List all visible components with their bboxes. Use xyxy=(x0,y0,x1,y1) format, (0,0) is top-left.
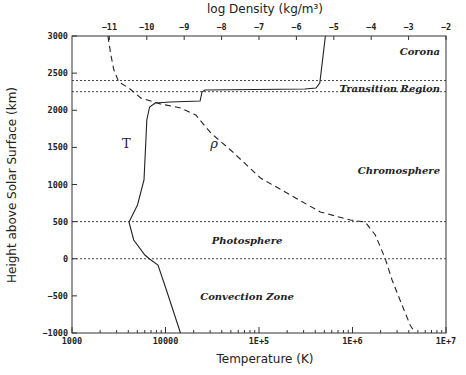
x2-tick-label: −8 xyxy=(216,22,226,32)
y-tick-label: −500 xyxy=(48,291,68,301)
x2-axis-label: log Density (kg/m³) xyxy=(207,2,323,16)
region-label: Chromosphere xyxy=(358,165,440,176)
x2-tick-label: −5 xyxy=(329,22,339,32)
curve-label: T xyxy=(122,136,131,151)
region-label: Convection Zone xyxy=(200,291,294,302)
region-label: Transition Region xyxy=(340,83,440,94)
region-label: Photosphere xyxy=(211,235,283,246)
x2-tick-label: −9 xyxy=(179,22,189,32)
x2-tick-label: −4 xyxy=(366,22,376,32)
x-tick-label: 1E+6 xyxy=(342,336,362,346)
y-tick-label: 500 xyxy=(53,217,68,227)
region-label: Corona xyxy=(400,46,440,57)
x2-tick-label: −10 xyxy=(139,22,154,32)
x-tick-label: 10000 xyxy=(153,336,179,346)
x2-tick-label: −3 xyxy=(403,22,413,32)
x2-tick-label: −6 xyxy=(291,22,301,32)
x-axis-top: −11−10−9−8−7−6−5−4−3−2 xyxy=(102,22,451,40)
y-tick-label: 1000 xyxy=(48,180,68,190)
x-tick-label: 1E+7 xyxy=(436,336,456,346)
y-tick-label: −1000 xyxy=(42,328,68,338)
region-labels: CoronaTransition RegionChromospherePhoto… xyxy=(200,46,440,302)
y-tick-label: 3000 xyxy=(48,31,68,41)
y-tick-label: 2500 xyxy=(48,68,68,78)
series-line-temperature xyxy=(129,36,325,333)
y-tick-label: 0 xyxy=(63,254,68,264)
x2-tick-label: −7 xyxy=(254,22,264,32)
x-axis-label: Temperature (K) xyxy=(215,352,313,366)
curve-label: ρ xyxy=(209,136,218,151)
x-axis-bottom: 1000100001E+51E+61E+7 xyxy=(62,327,456,346)
y-tick-label: 1500 xyxy=(48,142,68,152)
solar-atmosphere-chart: CoronaTransition RegionChromospherePhoto… xyxy=(0,0,466,375)
y-axis-label: Height above Solar Surface (km) xyxy=(5,87,19,283)
curve-labels: Tρ xyxy=(122,136,218,151)
x-tick-label: 1E+5 xyxy=(249,336,269,346)
y-tick-label: 2000 xyxy=(48,105,68,115)
x2-tick-label: −11 xyxy=(102,22,117,32)
x2-tick-label: −2 xyxy=(441,22,451,32)
